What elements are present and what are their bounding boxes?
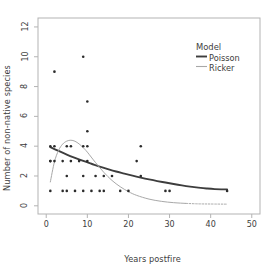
data-point	[53, 70, 56, 73]
curve-poisson	[50, 147, 227, 189]
data-point	[102, 175, 105, 178]
data-point	[86, 160, 89, 163]
data-point	[78, 160, 81, 163]
x-tick-label-50: 50	[242, 220, 262, 229]
curve-ricker-dashed	[186, 203, 227, 204]
legend-label-poisson: Poisson	[209, 53, 240, 63]
data-point	[111, 175, 114, 178]
data-point	[119, 190, 122, 193]
data-point	[49, 145, 52, 148]
x-tick-label-30: 30	[160, 220, 180, 229]
x-tick-label-0: 0	[36, 220, 56, 229]
data-point	[86, 130, 89, 133]
data-point	[82, 55, 85, 58]
data-point	[139, 175, 142, 178]
y-tick-label-6: 6	[19, 111, 31, 120]
y-tick-label-12: 12	[19, 22, 31, 31]
data-point	[65, 175, 68, 178]
y-tick-label-4: 4	[19, 141, 31, 150]
y-axis-ticks	[34, 27, 38, 206]
data-point	[226, 190, 229, 193]
y-axis-title-text: Number of non-native species	[2, 65, 12, 191]
data-point	[65, 190, 68, 193]
data-point	[94, 175, 97, 178]
data-point	[61, 160, 64, 163]
y-tick-label-2: 2	[19, 171, 31, 180]
data-point	[74, 190, 77, 193]
data-point	[135, 160, 138, 163]
data-point	[168, 190, 171, 193]
chart-figure: Number of non-native species Years postf…	[0, 0, 277, 268]
data-point	[127, 190, 130, 193]
x-tick-label-20: 20	[118, 220, 138, 229]
data-point	[98, 190, 101, 193]
data-point	[65, 145, 68, 148]
data-point	[102, 190, 105, 193]
data-point	[164, 190, 167, 193]
x-axis-title-text: Years postfire	[124, 254, 181, 264]
data-point	[70, 145, 73, 148]
data-point	[82, 175, 85, 178]
x-axis-ticks	[46, 214, 252, 218]
data-point	[53, 145, 56, 148]
model-curves	[50, 140, 227, 204]
data-point	[70, 160, 73, 163]
data-point	[82, 145, 85, 148]
x-axis-title: Years postfire	[0, 254, 277, 264]
data-point	[53, 160, 56, 163]
legend-label-ricker: Ricker	[209, 63, 234, 73]
y-axis-title: Number of non-native species	[0, 0, 14, 268]
y-tick-label-10: 10	[19, 52, 31, 61]
x-tick-label-40: 40	[201, 220, 221, 229]
data-point	[139, 145, 142, 148]
data-point	[49, 190, 52, 193]
data-point	[86, 145, 89, 148]
data-point	[49, 160, 52, 163]
data-points	[49, 55, 228, 192]
y-tick-label-0: 0	[19, 201, 31, 210]
legend-title: Model	[196, 42, 221, 52]
data-point	[61, 190, 64, 193]
plot-frame	[38, 18, 260, 214]
legend-swatches	[196, 57, 207, 67]
x-tick-label-10: 10	[77, 220, 97, 229]
data-point	[82, 190, 85, 193]
y-tick-label-8: 8	[19, 82, 31, 91]
data-point	[86, 100, 89, 103]
data-point	[90, 190, 93, 193]
